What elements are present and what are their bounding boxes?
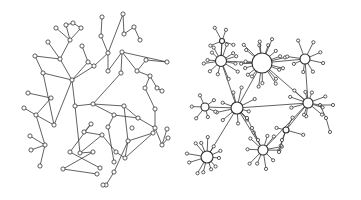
network-node	[33, 54, 37, 58]
hub-lower-middle-node	[258, 145, 268, 155]
leaf-node	[274, 77, 277, 80]
network-node	[68, 38, 72, 42]
leaf-node	[319, 51, 322, 54]
leaf-node	[235, 55, 238, 58]
leaf-node	[279, 55, 282, 58]
network-node	[52, 123, 56, 127]
network-node	[78, 151, 82, 155]
leaf-node	[286, 55, 289, 58]
network-edge	[108, 52, 122, 71]
network-node	[144, 58, 148, 62]
leaf-node	[206, 115, 209, 118]
leaf-edge	[223, 66, 228, 79]
network-node	[82, 130, 86, 134]
network-edge	[114, 115, 138, 118]
network-edge	[101, 17, 102, 36]
network-node	[112, 160, 116, 164]
network-node	[114, 150, 118, 154]
leaf-node	[210, 168, 213, 171]
network-edge	[82, 46, 88, 62]
network-node	[151, 131, 155, 135]
leaf-node	[188, 161, 191, 164]
leaf-node	[272, 159, 275, 162]
network-node	[148, 74, 152, 78]
leaf-node	[236, 122, 239, 125]
network-node	[29, 148, 33, 152]
network-node	[73, 104, 77, 108]
network-edge	[72, 80, 75, 106]
leaf-edge	[298, 41, 303, 55]
leaf-node	[311, 70, 314, 73]
chain-node	[250, 126, 253, 129]
network-node	[121, 12, 125, 16]
network-node	[43, 143, 47, 147]
network-edge	[63, 169, 97, 174]
network-edge	[145, 88, 155, 109]
hub-central-node	[252, 53, 272, 73]
leaf-node	[185, 152, 188, 155]
network-edge	[48, 42, 60, 59]
leaf-node	[244, 66, 247, 69]
leaf-node	[290, 106, 293, 109]
network-node	[86, 60, 90, 64]
network-node	[136, 116, 140, 120]
network-node	[130, 126, 134, 130]
leaf-node	[302, 133, 305, 136]
leaf-node	[292, 62, 295, 65]
network-node	[28, 134, 32, 138]
leaf-node	[198, 94, 201, 97]
leaf-node	[216, 73, 219, 76]
leaf-node	[194, 142, 197, 145]
leaf-node	[196, 172, 199, 175]
network-node	[54, 26, 58, 30]
network-edge	[75, 106, 80, 153]
hub-middle-node	[231, 102, 243, 114]
leaf-node	[266, 134, 269, 137]
leaf-node	[219, 149, 222, 152]
leaf-node	[221, 118, 224, 121]
network-node	[126, 139, 130, 143]
network-node	[119, 71, 123, 75]
network-node	[153, 107, 157, 111]
leaf-node	[278, 68, 281, 71]
network-node	[49, 96, 53, 100]
leaf-edge	[310, 60, 323, 63]
leaf-node	[257, 85, 260, 88]
network-edge	[93, 104, 124, 106]
network-node	[79, 26, 83, 30]
leaf-node	[206, 135, 209, 138]
network-edge	[108, 14, 123, 53]
leaf-node	[274, 49, 277, 52]
leaf-node	[246, 148, 249, 151]
leaf-node	[232, 91, 235, 94]
leaf-node	[225, 43, 228, 46]
leaf-node	[322, 61, 325, 64]
leaf-node	[261, 82, 264, 85]
network-node	[22, 106, 26, 110]
network-node	[106, 51, 110, 55]
network-node	[122, 32, 126, 36]
network-edge	[125, 133, 153, 158]
leaf-edge	[217, 109, 231, 112]
network-edge	[35, 56, 60, 59]
leaf-node	[212, 99, 215, 102]
leaf-node	[324, 95, 327, 98]
leaf-edge	[207, 137, 208, 151]
network-node	[68, 150, 72, 154]
leaf-node	[246, 73, 249, 76]
network-node	[155, 86, 159, 90]
network-edge	[155, 128, 162, 145]
network-node	[71, 21, 75, 25]
network-edge	[75, 104, 93, 106]
chain-node	[245, 116, 248, 119]
leaf-node	[253, 97, 256, 100]
leaf-node	[190, 105, 193, 108]
leaf-node	[240, 62, 243, 65]
network-node	[41, 71, 45, 75]
leaf-node	[302, 70, 305, 73]
network-node	[143, 86, 147, 90]
network-edge	[70, 152, 100, 168]
leaf-node	[245, 48, 248, 51]
network-edge	[101, 36, 108, 53]
chain-node	[328, 130, 331, 133]
